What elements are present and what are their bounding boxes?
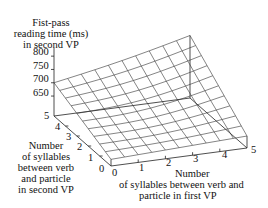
y-tick-5: 5 — [44, 111, 49, 121]
y-axis-label: Number of syllables between verb and par… — [16, 140, 76, 195]
x-axis-label: Number of syllables between verb and par… — [131, 168, 268, 201]
y-tick-2: 2 — [77, 142, 82, 152]
x-tick-5: 5 — [251, 145, 256, 155]
z-tick-750: 750 — [33, 61, 49, 71]
y-tick-4: 4 — [55, 122, 60, 132]
y-tick-0: 0 — [99, 164, 104, 174]
z-tick-800: 800 — [33, 47, 49, 57]
z-tick-700: 700 — [33, 74, 49, 84]
x-tick-3: 3 — [193, 154, 198, 164]
z-axis-label: Fist-pass reading time (ms) in second VP — [8, 17, 94, 50]
x-tick-4: 4 — [222, 150, 227, 160]
y-tick-3: 3 — [66, 132, 71, 142]
z-tick-650: 650 — [33, 88, 49, 98]
x-tick-0: 0 — [112, 168, 117, 178]
x-tick-2: 2 — [166, 158, 171, 168]
y-tick-1: 1 — [88, 153, 93, 163]
surface-mesh — [54, 35, 247, 159]
